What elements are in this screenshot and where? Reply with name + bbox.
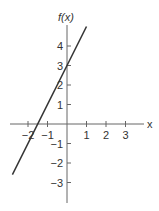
svg-text:4: 4 [57,40,63,52]
y-axis-label: f(x) [58,11,74,23]
svg-text:2: 2 [103,129,109,141]
svg-text:3: 3 [122,129,128,141]
svg-text:−3: −3 [50,177,63,189]
svg-text:−2: −2 [50,157,63,169]
x-axis-label: x [147,118,153,130]
svg-text:3: 3 [57,60,63,72]
line-graph: −2−1123 4321−1−2−3 f(x) x [0,0,159,211]
svg-text:1: 1 [57,99,63,111]
svg-text:−1: −1 [50,138,63,150]
function-line [12,27,86,175]
svg-text:1: 1 [83,129,89,141]
